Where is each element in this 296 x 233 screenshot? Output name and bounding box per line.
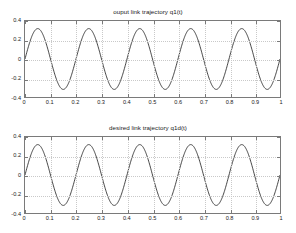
gridline-horizontal xyxy=(25,157,280,158)
gridline-vertical xyxy=(76,21,77,97)
axis-tick-y xyxy=(25,80,28,81)
axis-tick-x xyxy=(205,94,206,97)
axis-tick-y xyxy=(277,157,280,158)
gridline-horizontal xyxy=(25,176,280,177)
figure-window: ouput link trajectory q1(t) 00.10.20.30.… xyxy=(0,0,296,233)
gridline-horizontal xyxy=(25,80,280,81)
axis-tick-x xyxy=(128,137,129,140)
axis-tick-x xyxy=(128,210,129,213)
axis-label-x: 0.1 xyxy=(40,215,60,222)
axis-tick-x xyxy=(179,94,180,97)
gridline-vertical xyxy=(179,21,180,97)
gridline-vertical xyxy=(102,137,103,213)
axis-label-y: 0.2 xyxy=(1,152,21,159)
axis-tick-x xyxy=(179,137,180,140)
gridline-vertical xyxy=(128,137,129,213)
axis-tick-y xyxy=(25,176,28,177)
axis-label-y: -0.4 xyxy=(1,95,21,102)
axis-tick-y xyxy=(277,60,280,61)
axis-tick-x xyxy=(76,21,77,24)
gridline-vertical xyxy=(51,21,52,97)
axis-tick-y xyxy=(25,137,28,138)
axis-tick-x xyxy=(128,94,129,97)
axis-tick-y xyxy=(25,196,28,197)
axis-tick-x xyxy=(205,137,206,140)
axis-tick-x xyxy=(154,210,155,213)
axis-label-x: 0.1 xyxy=(40,99,60,106)
axis-tick-x xyxy=(76,137,77,140)
axis-label-y: -0.2 xyxy=(1,75,21,82)
axis-tick-y xyxy=(277,196,280,197)
gridline-horizontal xyxy=(25,41,280,42)
axis-tick-x xyxy=(231,21,232,24)
plot-axes xyxy=(24,136,281,214)
gridline-vertical xyxy=(51,137,52,213)
trajectory-curve xyxy=(25,21,280,97)
axis-tick-x xyxy=(76,94,77,97)
gridline-vertical xyxy=(205,137,206,213)
axis-tick-x xyxy=(102,94,103,97)
gridline-vertical xyxy=(128,21,129,97)
gridline-vertical xyxy=(154,21,155,97)
axis-label-x: 0.5 xyxy=(143,215,163,222)
axis-tick-x xyxy=(51,21,52,24)
axis-label-x: 0.3 xyxy=(91,99,111,106)
axis-label-y: 0 xyxy=(1,172,21,179)
axis-label-x: 1 xyxy=(271,215,291,222)
axis-label-x: 1 xyxy=(271,99,291,106)
axis-tick-x xyxy=(205,21,206,24)
axis-tick-x xyxy=(102,21,103,24)
axis-tick-x xyxy=(76,210,77,213)
gridline-horizontal xyxy=(25,196,280,197)
gridline-vertical xyxy=(76,137,77,213)
axis-tick-x xyxy=(179,210,180,213)
axis-label-x: 0.2 xyxy=(65,99,85,106)
axis-label-x: 0.9 xyxy=(245,99,265,106)
axis-label-x: 0.6 xyxy=(168,99,188,106)
gridline-vertical xyxy=(205,21,206,97)
axis-tick-y xyxy=(25,41,28,42)
axis-tick-x xyxy=(25,94,26,97)
gridline-vertical xyxy=(102,21,103,97)
axis-label-x: 0.7 xyxy=(194,99,214,106)
axis-tick-x xyxy=(231,94,232,97)
gridline-vertical xyxy=(256,21,257,97)
axis-tick-y xyxy=(277,41,280,42)
axis-tick-x xyxy=(154,21,155,24)
axis-tick-y xyxy=(277,137,280,138)
axis-tick-y xyxy=(25,157,28,158)
axis-tick-y xyxy=(277,176,280,177)
gridline-horizontal xyxy=(25,60,280,61)
axis-label-y: 0 xyxy=(1,56,21,63)
axis-label-x: 0.5 xyxy=(143,99,163,106)
axis-label-y: 0.2 xyxy=(1,36,21,43)
gridline-vertical xyxy=(231,137,232,213)
axis-tick-x xyxy=(51,94,52,97)
plot-title: ouput link trajectory q1(t) xyxy=(0,8,296,16)
axis-label-y: 0.4 xyxy=(1,133,21,140)
axis-tick-x xyxy=(256,21,257,24)
axis-tick-x xyxy=(154,137,155,140)
axis-tick-x xyxy=(256,137,257,140)
plot-title: desired link trajectory q1d(t) xyxy=(0,124,296,132)
axis-label-x: 0.8 xyxy=(220,99,240,106)
axis-label-x: 0.2 xyxy=(65,215,85,222)
axis-tick-x xyxy=(51,210,52,213)
axis-tick-x xyxy=(256,210,257,213)
trajectory-curve xyxy=(25,137,280,213)
axis-label-x: 0.4 xyxy=(117,99,137,106)
axis-label-x: 0.6 xyxy=(168,215,188,222)
axis-tick-x xyxy=(102,210,103,213)
axis-tick-x xyxy=(51,137,52,140)
axis-tick-x xyxy=(25,210,26,213)
gridline-vertical xyxy=(256,137,257,213)
axis-tick-x xyxy=(179,21,180,24)
axis-tick-x xyxy=(128,21,129,24)
axis-label-x: 0.3 xyxy=(91,215,111,222)
axis-tick-y xyxy=(25,21,28,22)
plot-axes xyxy=(24,20,281,98)
axis-tick-x xyxy=(256,94,257,97)
axis-label-x: 0.9 xyxy=(245,215,265,222)
axis-label-y: 0.4 xyxy=(1,17,21,24)
axis-label-x: 0.4 xyxy=(117,215,137,222)
